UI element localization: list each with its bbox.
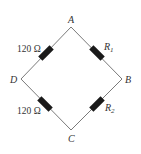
resistor-r2: [89, 96, 105, 112]
node-label-d: D: [9, 74, 18, 85]
node-label-a: A: [67, 14, 75, 25]
resistor-r2-label: R2: [104, 102, 115, 115]
resistor-r1-label: R1: [103, 41, 114, 54]
node-label-c: C: [68, 133, 75, 144]
resistor-r1: [89, 45, 105, 61]
node-label-b: B: [125, 74, 131, 85]
resistor-ad-label: 120 Ω: [17, 44, 41, 54]
bridge-circuit-diagram: A B C D 120 Ω R1 120 Ω R2: [0, 0, 141, 154]
resistor-dc-label: 120 Ω: [17, 106, 41, 116]
